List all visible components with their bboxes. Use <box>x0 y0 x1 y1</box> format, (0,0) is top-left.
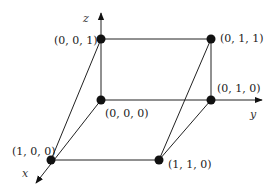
vertex-point-000 <box>97 96 106 105</box>
vertex-label-100: (1, 0, 0) <box>12 145 56 158</box>
x-axis <box>36 100 101 183</box>
edge-100-001 <box>51 39 101 160</box>
vertex-point-010 <box>207 96 216 105</box>
vertex-label-000: (0, 0, 0) <box>105 107 149 120</box>
vertex-point-011 <box>207 35 216 44</box>
z-axis-label: z <box>82 12 89 25</box>
cube-diagram: z y x (0, 0, 1) (0, 1, 1) (0, 0, 0) (0, … <box>0 0 272 193</box>
edge-110-010 <box>159 100 211 160</box>
vertex-point-110 <box>155 156 164 165</box>
x-axis-label: x <box>22 167 29 180</box>
vertex-point-001 <box>97 35 106 44</box>
vertex-label-110: (1, 1, 0) <box>168 158 212 171</box>
vertex-label-001: (0, 0, 1) <box>54 34 98 47</box>
y-axis-label: y <box>249 108 257 121</box>
vertex-label-010: (0, 1, 0) <box>217 82 261 95</box>
vertex-label-011: (0, 1, 1) <box>220 32 264 45</box>
